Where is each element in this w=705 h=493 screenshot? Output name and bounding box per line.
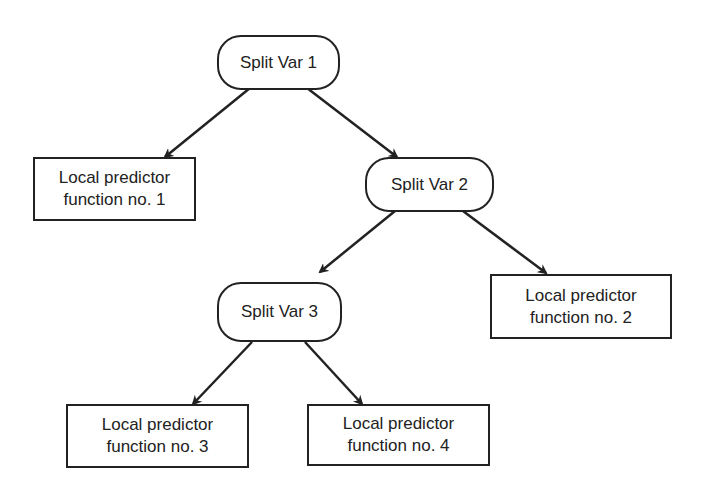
split-var-3-node: Split Var 3: [217, 282, 342, 342]
leaf-4-node: Local predictor function no. 4: [307, 404, 490, 466]
edge-split1-split2: [307, 88, 397, 157]
edge-split2-leaf2: [463, 211, 546, 273]
edge-split3-leaf4: [305, 342, 362, 404]
split-var-1-label: Split Var 1: [240, 53, 317, 73]
edge-split3-leaf3: [193, 342, 252, 404]
leaf-3-line2: function no. 3: [106, 436, 208, 458]
leaf-1-line1: Local predictor: [59, 167, 171, 189]
split-var-2-node: Split Var 2: [365, 157, 494, 212]
edge-split2-split3: [320, 211, 395, 272]
split-var-3-label: Split Var 3: [241, 302, 318, 322]
leaf-2-line1: Local predictor: [525, 285, 637, 307]
leaf-2-node: Local predictor function no. 2: [490, 274, 672, 339]
leaf-2-line2: function no. 2: [530, 307, 632, 329]
leaf-4-line2: function no. 4: [347, 435, 449, 457]
leaf-3-node: Local predictor function no. 3: [66, 404, 249, 468]
edge-split1-leaf1: [165, 88, 250, 157]
leaf-1-line2: function no. 1: [63, 189, 165, 211]
split-var-2-label: Split Var 2: [391, 175, 468, 195]
leaf-4-line1: Local predictor: [343, 413, 455, 435]
leaf-3-line1: Local predictor: [102, 414, 214, 436]
split-var-1-node: Split Var 1: [217, 35, 340, 90]
leaf-1-node: Local predictor function no. 1: [33, 157, 196, 221]
